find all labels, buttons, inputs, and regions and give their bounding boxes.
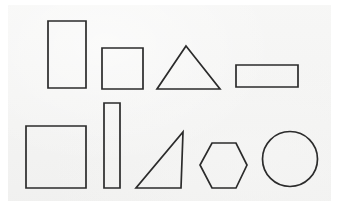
square-large-shape (26, 126, 86, 188)
narrow-rectangle-shape (104, 103, 120, 188)
bottom-row-shapes (26, 103, 318, 188)
triangle-right-shape (136, 132, 183, 188)
square-small-shape (102, 48, 143, 89)
wide-rectangle-shape (236, 65, 298, 87)
screenshot-root (0, 0, 339, 206)
shape-canvas (0, 0, 339, 206)
top-row-shapes (48, 21, 298, 89)
circle-shape (263, 132, 318, 187)
hexagon-shape (200, 143, 247, 188)
triangle-isosceles-shape (157, 46, 220, 89)
tall-rectangle-shape (48, 21, 86, 88)
